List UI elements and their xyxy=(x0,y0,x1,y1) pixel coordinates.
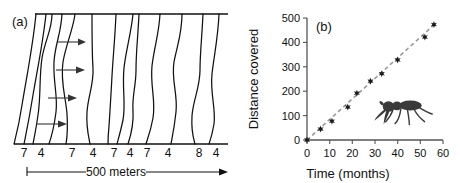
y-tick-label: 100 xyxy=(282,110,300,122)
panel-a-label: (a) xyxy=(12,14,28,29)
panel-b-svg: 0 100 200 300 400 500 0 10 20 xyxy=(230,0,460,183)
wave-line xyxy=(146,14,160,144)
x-tick-label: 60 xyxy=(437,147,449,159)
wave-line xyxy=(171,14,182,144)
transect-label: 4 xyxy=(90,146,97,160)
x-tick-label: 50 xyxy=(414,147,426,159)
x-tick-label: 40 xyxy=(392,147,404,159)
panel-a-svg: 7 4 7 4 7 4 7 4 8 4 500 meters (a) xyxy=(0,0,230,183)
wave-line xyxy=(87,14,93,144)
x-axis-title: Time (months) xyxy=(306,166,389,181)
data-point xyxy=(367,78,373,85)
wave-line xyxy=(209,14,219,144)
wave-line xyxy=(108,14,116,144)
y-tick-label: 200 xyxy=(282,85,300,97)
panel-a: 7 4 7 4 7 4 7 4 8 4 500 meters (a) xyxy=(0,0,230,183)
scale-bar-label: 500 meters xyxy=(86,165,146,179)
wave-line xyxy=(192,14,203,144)
direction-arrow xyxy=(36,121,67,128)
transect-label: 7 xyxy=(144,146,151,160)
transect-label: 4 xyxy=(127,146,134,160)
y-tick-label: 400 xyxy=(282,36,300,48)
transect-label: 7 xyxy=(21,146,28,160)
transect-label: 7 xyxy=(69,146,76,160)
x-tick-label: 10 xyxy=(324,147,336,159)
wave-line xyxy=(117,14,133,144)
x-tick-label: 30 xyxy=(369,147,381,159)
transect-label: 4 xyxy=(213,146,220,160)
transect-label: 8 xyxy=(196,146,203,160)
ant-icon xyxy=(374,101,432,125)
panel-b: 0 100 200 300 400 500 0 10 20 xyxy=(230,0,460,183)
panel-b-label: (b) xyxy=(316,19,332,34)
transect-label: 4 xyxy=(165,146,172,160)
y-tick-label: 300 xyxy=(282,61,300,73)
x-tick-label: 20 xyxy=(346,147,358,159)
y-axis-tick-labels: 0 100 200 300 400 500 xyxy=(282,12,300,146)
y-axis-title: Distance covered xyxy=(246,29,261,129)
transect-labels: 7 4 7 4 7 4 7 4 8 4 xyxy=(21,146,220,160)
direction-arrow xyxy=(56,67,85,74)
x-axis-tick-labels: 0 10 20 30 40 50 60 xyxy=(304,147,449,159)
data-point xyxy=(354,90,360,97)
y-tick-label: 500 xyxy=(282,12,300,24)
transect-label: 7 xyxy=(111,146,118,160)
figure-container: 7 4 7 4 7 4 7 4 8 4 500 meters (a) xyxy=(0,0,460,183)
direction-arrow xyxy=(48,95,77,102)
direction-arrow xyxy=(58,39,86,46)
y-tick-label: 0 xyxy=(294,134,300,146)
transect-label: 4 xyxy=(38,146,45,160)
wave-line xyxy=(14,14,36,144)
x-tick-label: 0 xyxy=(304,147,310,159)
plot-area xyxy=(304,21,437,143)
